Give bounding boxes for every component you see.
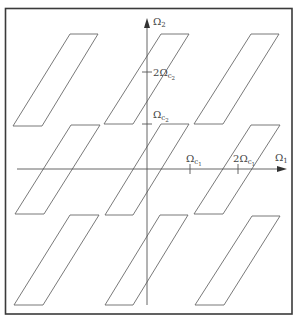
tick-label-two-omega-c2: 2Ωc2 (153, 67, 175, 81)
region-bottom-left (14, 215, 99, 305)
horizontal-axis-label: Ω1 (275, 152, 288, 165)
horizontal-axis: Ω1 Ωc1 2Ωc1 (17, 152, 288, 174)
tick-label-two-omega-c1: 2Ωc1 (233, 153, 255, 167)
tick-label-omega-c2: Ωc2 (153, 109, 169, 123)
region-middle-left (15, 125, 100, 214)
vertical-axis-label: Ω2 (153, 16, 166, 29)
horizontal-axis-arrow-icon (277, 166, 287, 172)
region-bottom-center (105, 215, 188, 305)
region-top-left (13, 34, 98, 126)
frequency-plane-diagram: Ω1 Ωc1 2Ωc1 Ω2 2Ωc2 Ωc2 (0, 0, 299, 318)
vertical-axis-arrow-icon (144, 18, 150, 28)
spectral-regions (13, 34, 280, 305)
region-top-center (104, 34, 189, 124)
region-middle-right (194, 125, 280, 214)
vertical-axis: Ω2 2Ωc2 Ωc2 (142, 16, 175, 305)
region-top-right (194, 34, 279, 124)
region-bottom-right (195, 216, 280, 305)
tick-label-omega-c1: Ωc1 (186, 153, 202, 167)
